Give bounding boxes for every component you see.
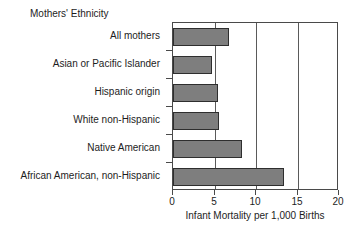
category-label: All mothers <box>110 22 160 50</box>
category-tick <box>166 134 172 135</box>
x-tick-label: 0 <box>157 196 187 208</box>
category-tick <box>166 50 172 51</box>
x-tick <box>172 190 173 195</box>
bar-band <box>173 163 337 191</box>
bar-band <box>173 51 337 79</box>
x-axis-title: Infant Mortality per 1,000 Births <box>172 210 338 222</box>
x-tick-label: 20 <box>323 196 353 208</box>
x-tick-label: 10 <box>240 196 270 208</box>
plot-area <box>172 22 338 190</box>
bar-band <box>173 135 337 163</box>
category-label: White non-Hispanic <box>73 106 160 134</box>
chart-title: Mothers' Ethnicity <box>30 8 109 20</box>
bar-band <box>173 107 337 135</box>
category-label: Asian or Pacific Islander <box>53 50 160 78</box>
x-tick-label: 15 <box>282 196 312 208</box>
infant-mortality-bar-chart: Mothers' Ethnicity All mothersAsian or P… <box>0 0 354 230</box>
category-tick <box>166 106 172 107</box>
bar <box>173 140 242 158</box>
bar <box>173 168 284 186</box>
bar <box>173 112 219 130</box>
category-tick <box>166 78 172 79</box>
x-tick-label: 5 <box>199 196 229 208</box>
bar <box>173 84 218 102</box>
x-tick <box>297 190 298 195</box>
x-tick <box>214 190 215 195</box>
bar-band <box>173 23 337 51</box>
category-label: African American, non-Hispanic <box>20 162 160 190</box>
bar <box>173 56 212 74</box>
bar <box>173 28 229 46</box>
x-tick <box>338 190 339 195</box>
bar-band <box>173 79 337 107</box>
category-label: Hispanic origin <box>94 78 160 106</box>
category-axis-labels: All mothersAsian or Pacific IslanderHisp… <box>0 22 166 190</box>
x-tick <box>255 190 256 195</box>
category-tick <box>166 162 172 163</box>
category-label: Native American <box>87 134 160 162</box>
